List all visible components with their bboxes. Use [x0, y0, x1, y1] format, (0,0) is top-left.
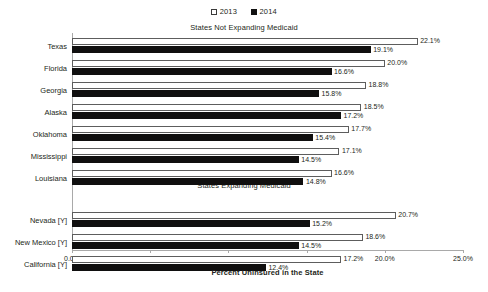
bar-value-label: 16.6%	[334, 68, 354, 75]
bar-2013	[72, 82, 366, 89]
bar-value-label: 17.7%	[351, 125, 371, 132]
axis-tick	[463, 250, 464, 253]
bar-2013	[72, 170, 332, 177]
category-label: Nevada [Y]	[0, 216, 72, 225]
legend-swatch-2014-icon	[251, 9, 257, 15]
bar-value-label: 22.1%	[420, 37, 440, 44]
bar-value-label: 20.7%	[398, 211, 418, 218]
section-title-not-expanding: States Not Expanding Medicaid	[0, 23, 488, 32]
bar-2013	[72, 126, 349, 133]
bar-2013	[72, 38, 418, 45]
bar-row: New Mexico [Y]18.6%14.5%	[72, 232, 463, 254]
bar-2013	[72, 256, 341, 263]
bar-2014	[72, 156, 299, 163]
bar-row: Georgia18.8%15.8%	[72, 80, 463, 102]
bar-row: Florida20.0%16.6%	[72, 58, 463, 80]
bar-2013	[72, 104, 361, 111]
x-axis-title: Percent Uninsured in the State	[72, 268, 463, 277]
bar-value-label: 14.5%	[301, 156, 321, 163]
bar-value-label: 18.8%	[369, 81, 389, 88]
bar-2013	[72, 148, 339, 155]
bar-2013	[72, 60, 385, 67]
bar-value-label: 17.2%	[344, 255, 364, 262]
category-label: Florida	[0, 64, 72, 73]
bar-row: Oklahoma17.7%15.4%	[72, 124, 463, 146]
legend-label-2013: 2013	[220, 7, 237, 16]
category-label: California [Y]	[0, 260, 72, 269]
bar-value-label: 18.6%	[365, 233, 385, 240]
bar-value-label: 14.5%	[301, 242, 321, 249]
bar-row: Mississippi17.1%14.5%	[72, 146, 463, 168]
bar-value-label: 18.5%	[364, 103, 384, 110]
chart-legend: 2013 2014	[0, 7, 488, 16]
bar-2014	[72, 134, 313, 141]
bar-value-label: 20.0%	[387, 59, 407, 66]
legend-swatch-2013-icon	[211, 9, 217, 15]
legend-entry-2013: 2013	[211, 7, 237, 16]
bar-2014	[72, 90, 319, 97]
category-label: Oklahoma	[0, 130, 72, 139]
bar-2014	[72, 242, 299, 249]
bar-2013	[72, 212, 396, 219]
bar-2014	[72, 220, 310, 227]
bar-value-label: 15.2%	[312, 220, 332, 227]
bar-value-label: 17.2%	[344, 112, 364, 119]
bar-value-label: 16.6%	[334, 169, 354, 176]
legend-entry-2014: 2014	[251, 7, 277, 16]
bar-row: Texas22.1%19.1%	[72, 36, 463, 58]
bar-2014	[72, 46, 371, 53]
plot-area: 0.0%5.0%10.0%15.0%20.0%25.0% Texas22.1%1…	[72, 33, 463, 250]
bar-value-label: 15.8%	[322, 90, 342, 97]
bar-2013	[72, 234, 363, 241]
category-label: Louisiana	[0, 174, 72, 183]
bar-2014	[72, 178, 303, 185]
bar-value-label: 14.8%	[306, 178, 326, 185]
legend-label-2014: 2014	[260, 7, 277, 16]
bar-value-label: 15.4%	[315, 134, 335, 141]
category-label: Texas	[0, 42, 72, 51]
category-label: Georgia	[0, 86, 72, 95]
bar-value-label: 17.1%	[342, 147, 362, 154]
bar-row: Alaska18.5%17.2%	[72, 102, 463, 124]
category-label: Alaska	[0, 108, 72, 117]
bar-2014	[72, 112, 341, 119]
grouped-bar-chart: 2013 2014 States Not Expanding Medicaid …	[0, 0, 488, 292]
bar-row: Louisiana16.6%14.8%	[72, 168, 463, 190]
category-label: New Mexico [Y]	[0, 238, 72, 247]
bar-row: Nevada [Y]20.7%15.2%	[72, 210, 463, 232]
bar-2014	[72, 68, 332, 75]
category-label: Mississippi	[0, 152, 72, 161]
bar-value-label: 19.1%	[373, 46, 393, 53]
